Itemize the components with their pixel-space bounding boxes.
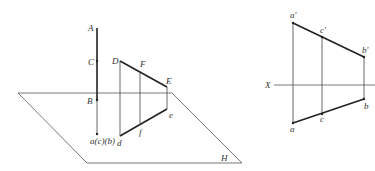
label-d: d xyxy=(117,138,122,148)
label-c-prime: c' xyxy=(320,25,327,35)
label-H: H xyxy=(220,153,228,163)
label-b: b xyxy=(364,101,369,111)
label-B: B xyxy=(87,96,93,106)
label-f: f xyxy=(139,127,143,137)
label-a: a xyxy=(290,124,295,134)
label-F: F xyxy=(139,59,146,69)
label-X: X xyxy=(264,80,271,90)
label-E: E xyxy=(165,76,172,86)
label-b-prime: b' xyxy=(362,45,370,55)
label-c: c xyxy=(320,114,324,124)
projection-diagram: A C B a(c)(b) D F E e f d H X a' c' b' a… xyxy=(0,0,375,171)
plane-h xyxy=(18,93,242,163)
label-acb: a(c)(b) xyxy=(90,136,115,146)
label-e: e xyxy=(169,110,173,120)
label-A: A xyxy=(87,23,94,33)
line-de-proj xyxy=(120,109,167,136)
label-C: C xyxy=(88,57,95,67)
label-a-prime: a' xyxy=(290,10,298,20)
label-D: D xyxy=(111,56,119,66)
